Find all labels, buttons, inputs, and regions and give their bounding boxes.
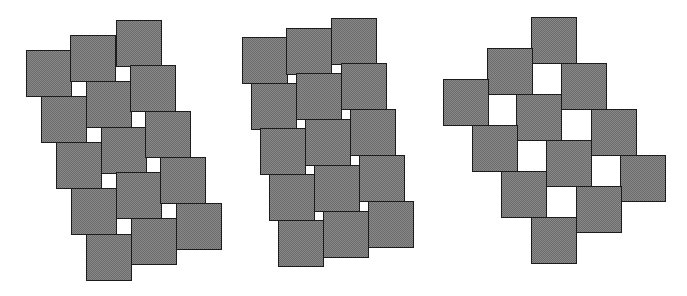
square-tile [443, 79, 489, 126]
square-tile [576, 186, 622, 233]
square-tile [620, 155, 666, 202]
square-tile [516, 94, 562, 141]
square-tile [487, 48, 533, 95]
square-tile [546, 140, 592, 187]
square-tile [531, 17, 577, 64]
square-tile [472, 125, 518, 172]
square-tile [561, 63, 607, 110]
square-tile [531, 217, 577, 264]
square-tile [591, 109, 637, 156]
square-tile [501, 171, 547, 218]
tiling-figure-right [0, 0, 687, 296]
